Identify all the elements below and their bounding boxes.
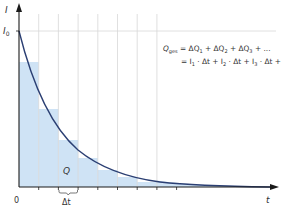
area-label: Q bbox=[63, 166, 70, 176]
approximation-bars bbox=[19, 62, 157, 187]
delta-t-label: Δt bbox=[62, 198, 71, 207]
i0-label: I0 bbox=[3, 26, 10, 37]
origin-label: 0 bbox=[14, 196, 19, 205]
bar-4 bbox=[78, 158, 98, 187]
charge-integral-diagram: I I0 0 t Q Δt Qges = ΔQ1 + ΔQ2 + ΔQ3 + .… bbox=[0, 0, 283, 213]
delta-t-brace bbox=[59, 190, 78, 195]
formula-line-2: = I1 · Δt + I2 · Δt + I3 · Δt + ... bbox=[181, 57, 283, 67]
bar-6 bbox=[118, 177, 138, 187]
y-axis-arrow-icon bbox=[16, 3, 22, 12]
bar-2 bbox=[39, 109, 59, 187]
bar-1 bbox=[19, 62, 39, 187]
bar-7 bbox=[137, 182, 157, 187]
bar-5 bbox=[98, 170, 118, 187]
x-axis-arrow-icon bbox=[270, 184, 279, 190]
y-axis-label: I bbox=[5, 5, 8, 15]
formula-line-1: Qges = ΔQ1 + ΔQ2 + ΔQ3 + ... bbox=[163, 44, 271, 55]
x-axis-label: t bbox=[266, 195, 270, 205]
